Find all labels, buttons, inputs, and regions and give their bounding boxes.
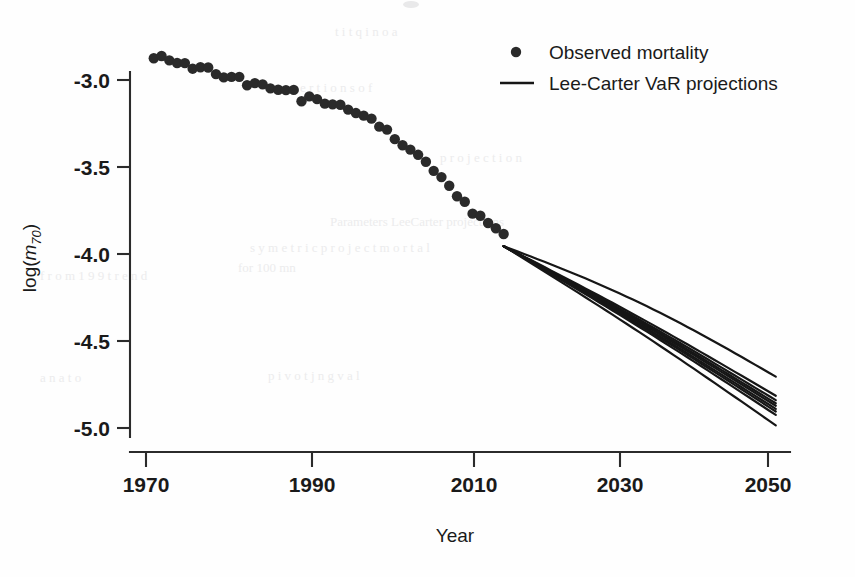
x-axis: 1970 1990 2010 2030 2050 Year [123,452,792,546]
x-tick-label: 2010 [451,473,498,496]
observed-data-point [382,124,392,134]
y-tick-label: -3.5 [74,156,111,179]
observed-data-point [475,211,485,221]
x-tick-label: 2050 [745,473,792,496]
observed-data-point [460,197,470,207]
y-axis-title: log(m70) [19,224,44,292]
y-axis-title-subscript: 70 [29,229,44,244]
x-axis-title: Year [436,525,475,546]
y-axis: -3.0 -3.5 -4.0 -4.5 -5.0 [74,69,130,440]
observed-data-point [413,150,423,160]
projection-trajectory [504,246,776,377]
legend-label-projections: Lee-Carter VaR projections [549,73,778,94]
legend-point-marker [511,47,521,57]
observed-data-point [234,72,244,82]
y-tick-label: -4.0 [74,243,110,266]
mortality-projection-figure: t i t q i n o a e r t i o n s o f p r o … [0,0,855,577]
legend: Observed mortality Lee-Carter VaR projec… [500,42,778,94]
lee-carter-projection-series [504,246,776,425]
y-axis-title-prefix: log( [19,260,40,292]
observed-data-point [366,113,376,123]
projection-trajectory [504,246,776,425]
x-tick-label: 2030 [597,473,644,496]
svg-text:log(m70): log(m70) [19,224,44,292]
observed-data-point [444,181,454,191]
y-tick-label: -4.5 [74,330,111,353]
observed-data-point [498,229,508,239]
observed-mortality-series [149,51,509,239]
x-tick-label: 1970 [123,473,170,496]
y-axis-title-var: m [19,245,40,261]
observed-data-point [289,85,299,95]
y-tick-label: -3.0 [74,69,110,92]
chart-canvas: -3.0 -3.5 -4.0 -4.5 -5.0 1970 1990 2010 … [0,0,855,577]
y-tick-label: -5.0 [74,417,110,440]
observed-data-point [436,172,446,182]
y-axis-title-suffix: ) [19,224,40,230]
observed-data-point [421,157,431,167]
x-tick-label: 1990 [289,473,336,496]
legend-label-observed: Observed mortality [549,42,709,63]
